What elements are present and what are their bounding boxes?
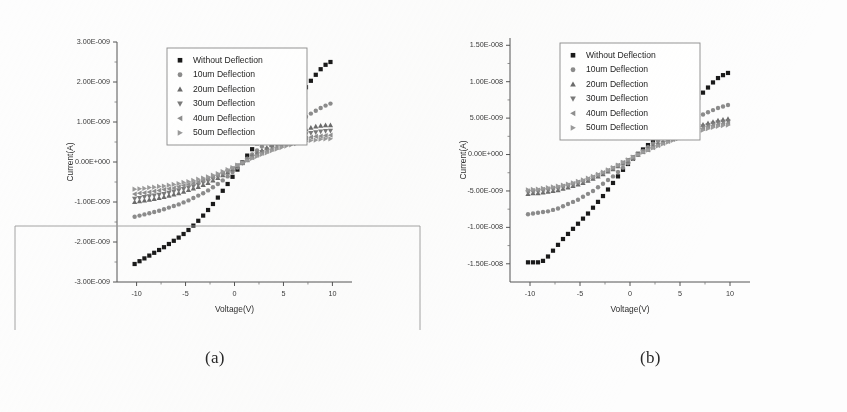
legend-label: 20um Deflection [586, 79, 648, 89]
data-point [586, 192, 590, 196]
data-point [606, 187, 610, 191]
data-point [167, 205, 171, 209]
caption-a: (a) [205, 348, 225, 368]
legend-label: 40um Deflection [586, 108, 648, 118]
data-point [211, 202, 215, 206]
data-point [323, 63, 327, 67]
data-point [556, 206, 560, 210]
data-point [142, 190, 147, 195]
data-point [147, 211, 151, 215]
data-point [318, 130, 323, 135]
legend-label: 10um Deflection [193, 69, 255, 79]
data-point [716, 106, 720, 110]
data-point [142, 256, 146, 260]
data-point [162, 245, 166, 249]
data-point [156, 193, 161, 198]
data-point [581, 195, 585, 199]
data-point [323, 129, 328, 134]
data-point [323, 123, 328, 128]
data-point [152, 194, 157, 199]
data-point [216, 196, 220, 200]
data-point [186, 198, 190, 202]
data-point [137, 259, 141, 263]
legend-label: 50um Deflection [586, 122, 648, 132]
data-point [177, 236, 181, 240]
data-point [621, 165, 625, 169]
data-point [701, 91, 705, 95]
legend-label: 20um Deflection [193, 84, 255, 94]
data-point [201, 214, 205, 218]
data-point [137, 186, 142, 191]
data-point [596, 200, 600, 204]
data-point [716, 76, 720, 80]
data-point [133, 187, 138, 192]
data-point [526, 260, 530, 264]
legend-label: Without Deflection [193, 55, 263, 65]
data-point [726, 71, 730, 75]
legend-label: 40um Deflection [193, 113, 255, 123]
data-point [711, 108, 715, 112]
data-point [701, 112, 705, 116]
data-point [172, 239, 176, 243]
caption-b: (b) [640, 348, 661, 368]
y-tick-label: 1.00E-008 [470, 77, 503, 86]
data-point [561, 204, 565, 208]
data-point [313, 124, 318, 129]
data-point [576, 222, 580, 226]
x-tick-label: -10 [131, 289, 141, 298]
y-tick-label: 5.00E-009 [470, 113, 503, 122]
data-point [616, 170, 620, 174]
y-tick-label: 0.00E+000 [468, 149, 503, 158]
legend-marker-circle-icon [571, 67, 576, 72]
data-point [531, 211, 535, 215]
data-point [541, 210, 545, 214]
data-point [157, 248, 161, 252]
data-point [166, 191, 171, 196]
y-tick-label: 0.00E+000 [75, 157, 110, 166]
data-point [576, 197, 580, 201]
data-point [186, 228, 190, 232]
data-point [551, 249, 555, 253]
data-point [181, 200, 185, 204]
data-point [328, 60, 332, 64]
data-point [721, 73, 725, 77]
data-point [601, 181, 605, 185]
data-point [561, 237, 565, 241]
data-point [611, 174, 615, 178]
data-point [566, 232, 570, 236]
data-point [196, 193, 200, 197]
x-tick-label: -5 [577, 289, 583, 298]
y-tick-label: -2.00E-009 [74, 237, 110, 246]
data-point [161, 192, 166, 197]
data-point [211, 185, 215, 189]
data-point [191, 196, 195, 200]
data-point [147, 189, 152, 194]
data-point [132, 191, 137, 196]
data-point [611, 181, 615, 185]
data-point [162, 207, 166, 211]
data-point [225, 174, 229, 178]
data-point [596, 185, 600, 189]
chart-panel-b: 1.50E-0081.00E-0085.00E-0090.00E+000-5.0… [420, 0, 847, 412]
legend-label: 10um Deflection [586, 64, 648, 74]
data-point [206, 208, 210, 212]
data-point [546, 209, 550, 213]
data-point [250, 147, 254, 151]
data-point [172, 204, 176, 208]
data-point [706, 110, 710, 114]
data-point [221, 189, 225, 193]
x-tick-label: -10 [525, 289, 535, 298]
data-point [591, 189, 595, 193]
data-point [157, 209, 161, 213]
x-tick-label: 0 [233, 289, 237, 298]
y-tick-label: -5.00E-009 [467, 186, 503, 195]
data-point [201, 191, 205, 195]
data-point [318, 123, 323, 128]
y-tick-label: -1.00E-008 [467, 222, 503, 231]
x-tick-label: 10 [726, 289, 734, 298]
y-axis-title: Current(A) [65, 142, 75, 181]
x-axis-title: Voltage(V) [610, 304, 649, 314]
data-point [226, 182, 230, 186]
y-tick-label: 3.00E-009 [77, 37, 110, 46]
data-point [556, 243, 560, 247]
